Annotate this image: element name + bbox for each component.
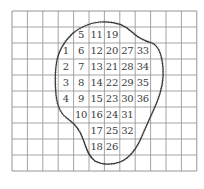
cell-number: 25	[104, 123, 119, 139]
cell-number: 32	[120, 123, 135, 139]
cell-number: 28	[120, 59, 135, 75]
cell-number: 18	[89, 139, 104, 155]
cell-number: 15	[89, 91, 104, 107]
cell-number: 31	[120, 107, 135, 123]
cell-number: 14	[89, 75, 104, 91]
cell-number: 6	[74, 43, 89, 59]
cell-number: 23	[104, 91, 119, 107]
cell-number: 19	[104, 27, 119, 43]
cell-number: 10	[74, 107, 89, 123]
cell-number: 22	[104, 75, 119, 91]
cell-number: 13	[89, 59, 104, 75]
grid-diagram: 5111916122027332713212834381422293549152…	[0, 0, 204, 189]
cell-number: 2	[58, 59, 73, 75]
cell-number: 34	[135, 59, 150, 75]
cell-number: 7	[74, 59, 89, 75]
cell-number: 27	[120, 43, 135, 59]
cell-number: 3	[58, 75, 73, 91]
cell-number: 29	[120, 75, 135, 91]
cell-number: 12	[89, 43, 104, 59]
cell-number: 35	[135, 75, 150, 91]
cell-number: 11	[89, 27, 104, 43]
cell-number: 17	[89, 123, 104, 139]
cell-number: 5	[74, 27, 89, 43]
cell-number: 1	[58, 43, 73, 59]
cell-number: 9	[74, 91, 89, 107]
cell-number: 4	[58, 91, 73, 107]
cell-number: 8	[74, 75, 89, 91]
cell-number: 33	[135, 43, 150, 59]
cell-number: 24	[104, 107, 119, 123]
cell-number: 26	[104, 139, 119, 155]
cell-number: 36	[135, 91, 150, 107]
cell-number: 20	[104, 43, 119, 59]
cell-number: 16	[89, 107, 104, 123]
cell-number: 21	[104, 59, 119, 75]
cell-number: 30	[120, 91, 135, 107]
